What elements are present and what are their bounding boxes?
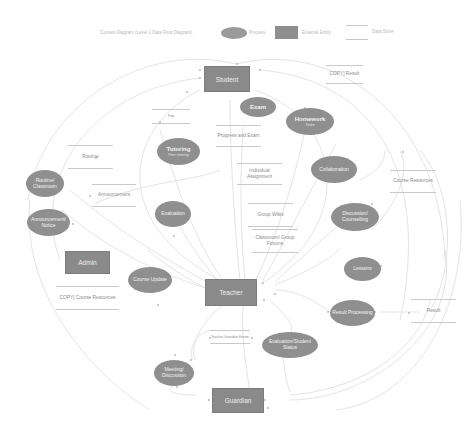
process-meeting: Meeting/ Discussion bbox=[154, 360, 194, 386]
legend-entity-icon bbox=[275, 26, 298, 39]
process-exam-title: Exam bbox=[250, 104, 266, 111]
store-individual-assignment: Individual Assignment bbox=[237, 163, 282, 185]
process-collaboration-title: Collaboration bbox=[319, 167, 348, 173]
entity-guardian: Guardian bbox=[212, 388, 264, 413]
store-course-resources: Course Resources bbox=[390, 170, 436, 193]
process-discussion-title: Discussion/ Counselling bbox=[331, 211, 379, 223]
process-evaluation: Evaluation bbox=[155, 201, 191, 227]
entity-admin: Admin bbox=[65, 251, 110, 274]
store-faq: Faq bbox=[152, 109, 190, 124]
process-evaluation-status: Evaluation/Student Status bbox=[262, 332, 318, 358]
process-tutoring: Tutoring Peer tutoring bbox=[157, 138, 200, 165]
process-homework: Homework Tasks bbox=[286, 108, 334, 135]
process-evaluation-status-title: Evaluation/Student Status bbox=[262, 339, 318, 351]
process-course-update: Course Update bbox=[128, 267, 172, 293]
process-collaboration: Collaboration bbox=[311, 156, 357, 183]
process-lessons: Lessons bbox=[344, 257, 381, 281]
process-routine: Routine/ Classroom bbox=[26, 170, 64, 197]
legend-store-label: Data Store bbox=[372, 29, 394, 34]
legend-entity-label: External Entity bbox=[302, 30, 331, 35]
entity-teacher: Teacher bbox=[205, 279, 257, 306]
store-announcement: Announcement bbox=[92, 184, 136, 207]
store-progress-exam: Progress and Exam bbox=[216, 125, 261, 147]
process-exam: Exam bbox=[240, 97, 276, 117]
legend-process-label: Process bbox=[249, 30, 265, 35]
process-discussion: Discussion/ Counselling bbox=[331, 203, 379, 231]
process-meeting-title: Meeting/ Discussion bbox=[154, 367, 194, 379]
flow-lines bbox=[0, 0, 476, 433]
process-result-processing-title: Result Processing bbox=[332, 310, 372, 316]
process-routine-title: Routine/ Classroom bbox=[26, 178, 64, 190]
process-course-update-title: Course Update bbox=[133, 277, 167, 283]
store-copy-result: COPY] Result bbox=[326, 65, 363, 84]
store-result: Result bbox=[411, 299, 456, 323]
legend-store-icon bbox=[346, 25, 368, 40]
process-tutoring-title: Tutoring bbox=[167, 146, 191, 153]
store-group-wikis: Group Wikis bbox=[248, 203, 293, 227]
process-tutoring-sub: Peer tutoring bbox=[168, 153, 189, 157]
legend-process-icon bbox=[221, 27, 247, 39]
process-announcement-title: Announcement/ Notice bbox=[27, 217, 70, 229]
legend-title: Context Diagram (Level 1 Data Flow Diagr… bbox=[100, 30, 192, 35]
store-teacher-guardian-forum: Teacher Guardian Forum bbox=[210, 330, 250, 344]
process-lessons-title: Lessons bbox=[353, 266, 372, 272]
process-homework-title: Homework bbox=[295, 116, 326, 123]
store-classroom-forums: Classroom/ Group Forums bbox=[252, 229, 298, 253]
process-homework-sub: Tasks bbox=[305, 123, 314, 127]
entity-student: Student bbox=[204, 66, 250, 92]
store-copy-course-resources: COPY] Course Resources bbox=[56, 286, 119, 310]
process-evaluation-title: Evaluation bbox=[161, 211, 184, 217]
process-result-processing: Result Processing bbox=[330, 300, 375, 326]
process-announcement: Announcement/ Notice bbox=[27, 209, 70, 236]
store-routine: Routine bbox=[68, 145, 113, 169]
